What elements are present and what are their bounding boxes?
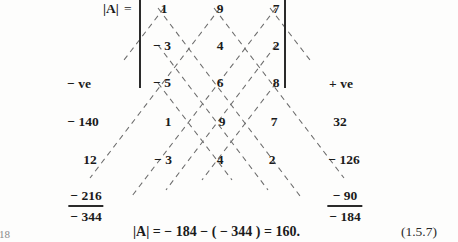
left-product-2: 12: [83, 153, 97, 167]
repeated-cell-r2c1: − 3: [154, 153, 172, 167]
diag-down-1: [158, 8, 300, 196]
repeated-cell-r1c3: 7: [271, 115, 278, 129]
diag-up-3: [202, 83, 276, 180]
result-expression: = − 184 − ( − 344 ) = 160.: [153, 224, 300, 239]
matrix-cell-r1c2: 9: [217, 2, 224, 16]
diag-down-4: [214, 8, 344, 178]
diag-down-2: [158, 45, 268, 190]
determinant-bar-right: [284, 0, 286, 88]
page-marker: 18: [0, 228, 10, 240]
matrix-cell-r2c1: − 3: [153, 39, 171, 53]
repeated-cell-r2c2: 4: [217, 153, 224, 167]
right-sum-rule: [327, 205, 362, 206]
repeated-cell-r1c1: 1: [165, 115, 172, 129]
matrix-cell-r1c3: 7: [273, 2, 280, 16]
left-sum-block: − 216 − 344: [68, 189, 103, 224]
matrix-cell-r1c1: 1: [161, 2, 168, 16]
determinant-bar-left: [139, 0, 141, 88]
matrix-cell-r3c3: 8: [273, 76, 280, 90]
left-product-3: − 216: [68, 189, 103, 204]
left-sum-rule: [68, 205, 103, 206]
repeated-cell-r1c2: 9: [219, 115, 226, 129]
right-total: − 184: [327, 209, 362, 224]
determinant-symbol: |A|: [103, 2, 119, 16]
matrix-cell-r2c2: 4: [217, 39, 224, 53]
right-product-1: 32: [333, 115, 347, 129]
equals-sign: =: [124, 2, 132, 16]
negative-sign-label: − ve: [67, 77, 91, 91]
repeated-cell-r2c3: 2: [269, 153, 276, 167]
matrix-cell-r2c3: 2: [273, 39, 280, 53]
matrix-cell-r3c2: 6: [217, 76, 224, 90]
matrix-cell-r3c1: − 5: [153, 76, 171, 90]
figure-page: |A| = 1 9 7 − 3 4 2 − 5 6 8 − ve + ve 1 …: [0, 0, 458, 242]
equation-number: (1.5.7): [401, 224, 437, 240]
positive-sign-label: + ve: [329, 77, 353, 91]
left-product-1: − 140: [67, 115, 98, 129]
right-product-2: − 126: [328, 153, 359, 167]
left-total: − 344: [68, 209, 103, 224]
result-equation: |A| = − 184 − ( − 344 ) = 160.: [133, 224, 300, 240]
right-sum-block: − 90 − 184: [327, 189, 362, 224]
diag-up-1: [132, 8, 276, 196]
right-product-3: − 90: [327, 189, 362, 204]
result-determinant-symbol: |A|: [133, 224, 149, 239]
